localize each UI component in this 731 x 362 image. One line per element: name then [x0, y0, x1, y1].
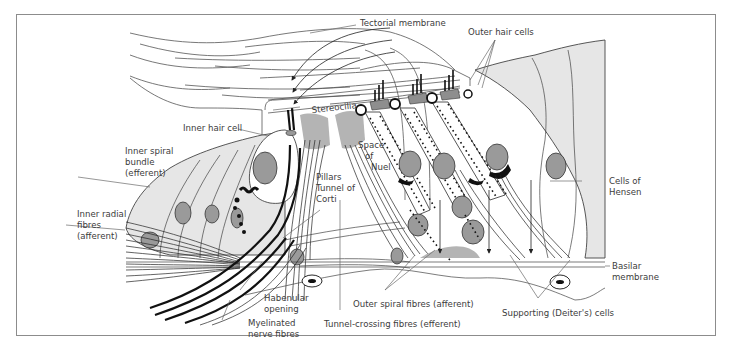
label-tunnel-crossing-fibres: Tunnel-crossing fibres (efferent): [323, 319, 461, 329]
label-basilar-membrane-1: Basilar: [612, 261, 642, 271]
label-outer-spiral-fibres: Outer spiral fibres (afferent): [353, 299, 474, 309]
label-tunnel-of-corti-1: Tunnel of: [315, 183, 356, 193]
tunnel-of-corti: [285, 222, 410, 268]
label-inner-spiral-bundle-2: bundle: [125, 157, 154, 167]
label-inner-spiral-bundle-3: (efferent): [125, 168, 166, 178]
organ-of-corti-diagram: Tectorial membrane Outer hair cells Ster…: [0, 0, 731, 362]
deiters-stipple: [420, 246, 480, 258]
label-inner-radial-fibres-1: Inner radial: [77, 209, 126, 219]
outer-hair-cells: [356, 70, 511, 244]
label-habenular-opening-1: Habenular: [264, 293, 309, 303]
label-space-of-nuel-3: Nuel: [371, 162, 391, 172]
label-inner-radial-fibres-2: fibres: [77, 220, 101, 230]
label-cells-of-hensen-1: Cells of: [609, 176, 642, 186]
label-inner-spiral-bundle-1: Inner spiral: [125, 146, 174, 156]
label-myelinated-nerve-fibres-2: nerve fibres: [248, 329, 300, 339]
label-space-of-nuel-1: Space: [358, 140, 384, 150]
label-tunnel-of-corti-2: Corti: [316, 194, 337, 204]
basilar-membrane: [126, 262, 605, 300]
label-cells-of-hensen-2: Hensen: [609, 187, 641, 197]
label-pillars: Pillars: [316, 172, 342, 182]
label-basilar-membrane-2: membrane: [612, 272, 659, 282]
label-inner-hair-cell: Inner hair cell: [183, 123, 242, 133]
label-habenular-opening-2: opening: [264, 304, 299, 314]
label-tectorial-membrane: Tectorial membrane: [359, 18, 446, 28]
label-inner-radial-fibres-3: (afferent): [77, 231, 118, 241]
label-myelinated-nerve-fibres-1: Myelinated: [248, 318, 295, 328]
label-space-of-nuel-2: of: [365, 151, 374, 161]
label-supporting-cells: Supporting (Deiter's) cells: [502, 308, 615, 318]
label-outer-hair-cells: Outer hair cells: [468, 27, 534, 37]
